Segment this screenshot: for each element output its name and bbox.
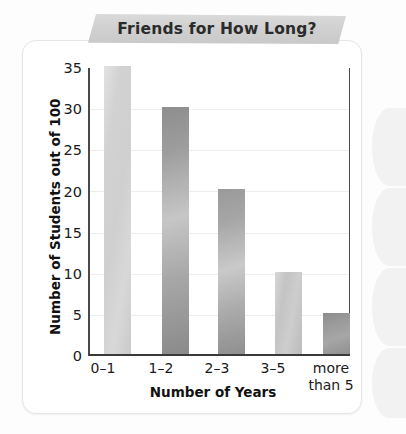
y-tick-label: 30: [58, 101, 82, 117]
decorative-scallop-icon: [372, 108, 406, 186]
x-tick-label-2-3: 2–3: [186, 360, 248, 377]
bar-2-3: [218, 189, 245, 354]
bar-3-5: [275, 272, 302, 354]
x-tick-label-0-1: 0–1: [72, 360, 134, 377]
y-tick-label: 10: [58, 266, 82, 282]
y-tick-label: 5: [58, 307, 82, 323]
chart-title-banner: Friends for How Long?: [88, 14, 346, 44]
x-tick-label-1-2: 1–2: [130, 360, 192, 377]
plot-area: [88, 68, 350, 356]
y-tick-label: 15: [58, 225, 82, 241]
decorative-scallop-icon: [372, 348, 406, 418]
bar-0-1: [104, 66, 131, 354]
x-tick-label-line2: than 5: [300, 377, 362, 394]
y-tick-label: 20: [58, 184, 82, 200]
bar-1-2: [162, 107, 189, 354]
y-tick-label: 25: [58, 142, 82, 158]
x-tick-label-line1: more: [300, 360, 362, 377]
decorative-scallop-icon: [372, 188, 406, 266]
x-axis-label: Number of Years: [118, 384, 308, 400]
chart-title: Friends for How Long?: [117, 20, 316, 38]
x-tick-label-3-5: 3–5: [242, 360, 304, 377]
y-tick-label: 35: [58, 60, 82, 76]
decorative-scallop-icon: [372, 268, 406, 346]
page-background: Friends for How Long? Number of Students…: [0, 0, 406, 434]
bar-more-than-5: [323, 313, 350, 354]
x-tick-label-more-than-5: more than 5: [300, 360, 362, 394]
